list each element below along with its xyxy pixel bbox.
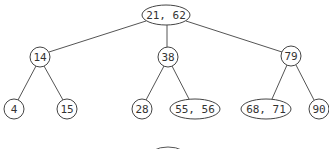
tree-node-n4: 4 <box>4 99 24 119</box>
node-label: 79 <box>284 50 297 63</box>
edge-n79-n6871 <box>272 65 287 99</box>
node-label: 21, 62 <box>146 9 186 22</box>
node-label: 90 <box>312 103 325 116</box>
tree-node-n79: 79 <box>281 46 301 66</box>
tree-node-n14: 14 <box>30 47 50 67</box>
node-label: 55, 56 <box>175 103 215 116</box>
edge-n38-n28 <box>146 66 164 100</box>
tree-node-n15: 15 <box>57 99 77 119</box>
tree-node-n6871: 68, 71 <box>241 99 291 119</box>
node-label: 68, 71 <box>246 103 286 116</box>
tree-node-n5556: 55, 56 <box>170 99 220 119</box>
tree-nodes: 21, 621438794152855, 5668, 7190 <box>4 5 329 119</box>
edge-n14-n4 <box>18 66 36 100</box>
tree-node-n90: 90 <box>309 99 329 119</box>
edge-root-n14 <box>49 21 146 52</box>
edge-n79-n90 <box>296 65 314 100</box>
tree-diagram: 21, 621438794152855, 5668, 7190 <box>0 0 329 149</box>
tree-node-root: 21, 62 <box>142 5 190 25</box>
node-label: 14 <box>33 51 47 64</box>
node-label: 38 <box>161 51 174 64</box>
tree-node-n28: 28 <box>132 99 152 119</box>
node-label: 28 <box>135 103 148 116</box>
edge-root-n79 <box>186 21 282 52</box>
node-label: 15 <box>60 103 73 116</box>
tree-node-n38: 38 <box>158 47 178 67</box>
edge-n14-n15 <box>44 66 63 100</box>
edge-n38-n5556 <box>172 66 189 99</box>
node-label: 4 <box>11 103 18 116</box>
partial-ellipse <box>148 147 188 149</box>
partial-node-cut-off <box>148 147 188 149</box>
